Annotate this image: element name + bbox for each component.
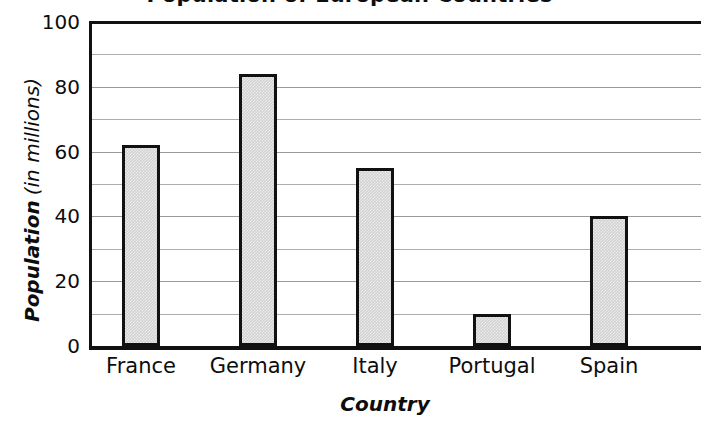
chart-title: Population of European Countries <box>0 0 699 7</box>
x-axis-tick-label: Italy <box>352 354 398 378</box>
y-axis-tick-label: 100 <box>24 12 80 32</box>
gridline-major <box>92 87 701 88</box>
gridline-minor <box>92 184 701 185</box>
bar-france <box>122 145 160 346</box>
x-axis-tick-label: Spain <box>580 354 639 378</box>
x-axis-tick-label: Portugal <box>449 354 536 378</box>
y-axis-tick-label: 80 <box>24 77 80 97</box>
plot-area <box>89 21 701 349</box>
bar-germany <box>239 74 277 346</box>
y-axis-tick-label: 60 <box>24 142 80 162</box>
gridline-major <box>92 22 701 23</box>
y-axis-tick-label: 20 <box>24 271 80 291</box>
gridline-major <box>92 152 701 153</box>
bar-spain <box>590 216 628 346</box>
bar-portugal <box>473 314 511 346</box>
y-axis-tick-label: 0 <box>24 336 80 356</box>
x-axis-line <box>89 346 701 350</box>
x-axis-tick-label: Germany <box>210 354 307 378</box>
gridline-minor <box>92 119 701 120</box>
y-axis-tick-label: 40 <box>24 206 80 226</box>
y-axis-tick-labels: 020406080100 <box>24 0 80 428</box>
bar-italy <box>356 168 394 346</box>
x-axis-title: Country <box>0 392 705 416</box>
x-axis-tick-label: France <box>106 354 176 378</box>
gridline-minor <box>92 54 701 55</box>
